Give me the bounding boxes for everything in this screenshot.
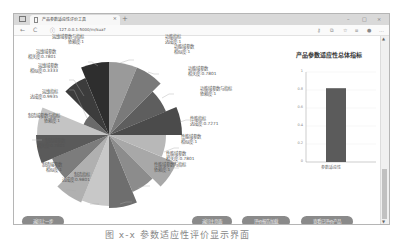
rose-label: 功能域参数与指标依赖度:1 [200,86,232,96]
rose-label: 性能域参数相似度:1 [181,134,201,144]
extensions-icon[interactable]: ⧉ [330,25,334,35]
y-tick: 0.2 [287,141,303,145]
view-evaluated-button[interactable]: 查看已评价产品 [301,216,353,225]
bar-chart-title: 产品参数适应性总体指标 [284,50,374,59]
figure-caption: 图 x-x 参数适应性评价显示界面 [105,228,250,241]
bar-parameter-adaptability[interactable] [326,88,346,162]
tab-close-icon[interactable]: × [113,15,117,21]
scroll-up-icon[interactable]: ▲ [382,36,385,41]
rose-label: 运维域参数相似度:0.3333 [30,63,58,73]
close-window-button[interactable]: × [377,14,381,25]
browser-window: 产品参数适应性评价工具 × + – □ × ← C ⓘ 127.0.0.1:50… [13,13,390,225]
rose-label: 运维指标达成度:0.9935 [30,89,58,99]
rose-label: 性能域参数相关度:0.7801 [166,151,194,161]
minimize-button[interactable]: – [347,14,350,25]
rose-label: 制造域参数相关度:0.7801 [37,138,65,148]
reload-button[interactable]: C [33,25,37,35]
vertical-scrollbar[interactable]: ▲ ▼ [380,36,389,224]
workspaces-icon[interactable] [19,16,26,22]
rose-label: 性能指标达成度:0.7271 [190,116,218,126]
rose-label: 运维域参数相关度:0.7801 [28,49,56,59]
load-report-button[interactable]: 评价报告加载 [242,216,290,225]
favorites-icon[interactable]: ☆ [343,25,347,35]
more-icon[interactable]: … [379,25,384,35]
page-content: 功能指标达成度:1 功能域参数相似度:1 功能域参数相关度:0.7801 功能域… [14,36,380,224]
back-previous-button[interactable]: 返回上一步 [22,216,64,225]
rose-label: 运维域参数与指标依赖度:1 [52,34,84,44]
back-home-button[interactable]: 返回主页面 [192,216,232,225]
x-axis-label: 参数适应性 [321,164,341,170]
scrollbar-thumb[interactable] [382,169,387,219]
y-tick: 0.4 [287,123,303,127]
tab-title: 产品参数适应性评价工具 [42,16,86,22]
y-tick: 1 [287,69,303,73]
new-tab-button[interactable]: + [122,14,128,24]
maximize-button[interactable]: □ [362,14,367,25]
rose-label: 制造指标达成度:0.9801 [62,172,90,182]
profile-icon[interactable]: ● [367,25,371,35]
rose-label: 功能指标达成度:1 [165,34,181,44]
y-tick: 0.8 [287,87,303,91]
rose-label: 功能域参数相关度:0.7801 [188,66,216,76]
tab-bar: 产品参数适应性评价工具 × + – □ × [14,14,389,25]
rose-label: 功能域参数相似度:1 [174,44,194,54]
back-button[interactable]: ← [20,25,25,35]
y-tick: 0 [287,159,303,163]
bar-chart [284,64,379,174]
rose-label: 制造域参数与指标依赖度:1 [28,113,60,123]
rose-label: 性能域参数与指标依赖度:1 [154,162,186,172]
address-input[interactable]: 127.0.0.1:5000/m/kua? [59,26,106,34]
collections-icon[interactable]: ⧈ [355,25,358,35]
rose-label: 制造域参数相似度:1 [42,162,62,172]
scroll-down-icon[interactable]: ▼ [382,219,385,224]
y-tick: 0.6 [287,105,303,109]
key-icon[interactable]: ⚷ [317,25,321,35]
page-icon [34,17,38,23]
browser-tab[interactable]: 产品参数适应性评价工具 × [30,15,120,25]
